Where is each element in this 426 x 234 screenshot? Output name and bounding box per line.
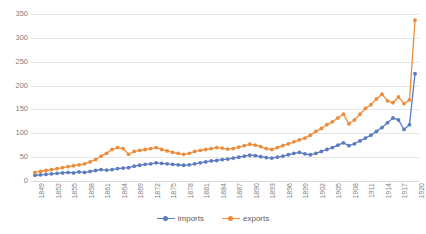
data-point [330,120,334,124]
data-point [198,149,202,153]
data-point [149,162,153,166]
data-point [402,102,406,106]
data-point [408,98,412,102]
data-point [353,118,357,122]
data-point [50,168,54,172]
data-point [259,155,263,159]
line-marker-icon [157,214,175,222]
data-point [325,148,329,152]
legend-label: exports [243,214,269,223]
data-point [176,151,180,155]
data-point [154,146,158,150]
data-point [77,163,81,167]
data-point [77,170,81,174]
series-exports [33,18,417,174]
data-point [375,129,379,133]
data-point [286,153,290,157]
data-point [88,160,92,164]
data-point [165,149,169,153]
data-point [160,161,164,165]
data-point [342,141,346,145]
x-axis-tick-label: 1890 [253,183,260,199]
y-axis-tick-label: 50 [2,153,28,161]
data-point [375,97,379,101]
data-point [242,144,246,148]
y-axis-tick-label: 100 [2,129,28,137]
data-point [264,156,268,160]
data-point [55,167,59,171]
x-axis-tick-label: 1884 [220,183,227,199]
data-point [138,163,142,167]
x-axis-tick-label: 1887 [236,183,243,199]
data-point [204,160,208,164]
data-point [364,107,368,111]
data-point [110,148,114,152]
x-axis-tick-label: 1849 [38,183,45,199]
data-point [83,171,87,175]
data-point [94,169,98,173]
data-point [94,158,98,162]
data-point [330,146,334,150]
data-point [61,171,65,175]
data-point [391,101,395,105]
y-axis-tick-label: 0 [2,177,28,185]
series-line [35,74,415,176]
data-point [220,158,224,162]
data-point [209,159,213,163]
data-point [386,99,390,103]
data-point [55,171,59,175]
data-point [198,161,202,165]
x-axis-tick-label: 1881 [203,183,210,199]
data-point [270,156,274,160]
data-point [264,147,268,151]
data-point [342,112,346,116]
x-axis-tick-label: 1908 [352,183,359,199]
data-point [364,136,368,140]
data-point [39,170,43,174]
data-point [72,171,76,175]
data-point [204,148,208,152]
legend-item-imports[interactable]: imports [157,214,204,223]
legend-item-exports[interactable]: exports [222,214,269,223]
y-axis-tick-label: 300 [2,34,28,42]
data-point [143,148,147,152]
data-point [248,153,252,157]
data-point [281,144,285,148]
data-point [121,166,125,170]
data-point [253,154,257,158]
data-point [380,126,384,130]
data-point [138,149,142,153]
data-point [397,95,401,99]
x-axis-tick-label: 1852 [55,183,62,199]
x-axis-tick-label: 1855 [71,183,78,199]
data-point [44,169,48,173]
data-point [303,136,307,140]
data-point [187,163,191,167]
data-point [413,72,417,76]
data-point [297,138,301,142]
data-point [127,166,131,170]
data-point [286,142,290,146]
legend-label: imports [178,214,204,223]
data-point [160,148,164,152]
data-point [292,140,296,144]
data-point [182,163,186,167]
data-point [297,150,301,154]
data-point [66,165,70,169]
line-marker-icon [222,214,240,222]
data-point [281,154,285,158]
x-axis-tick-label: 1920 [418,183,425,199]
x-axis-tick-label: 1872 [154,183,161,199]
data-point [132,164,136,168]
data-point [369,133,373,137]
x-axis: 1849185218551858186118641869187218751878… [31,183,419,207]
data-point [88,170,92,174]
data-point [253,143,257,147]
data-point [105,151,109,155]
x-axis-tick-label: 1914 [385,183,392,199]
x-axis-tick-label: 1896 [286,183,293,199]
data-point [83,162,87,166]
data-point [99,168,103,172]
data-point [380,92,384,96]
data-point [105,168,109,172]
